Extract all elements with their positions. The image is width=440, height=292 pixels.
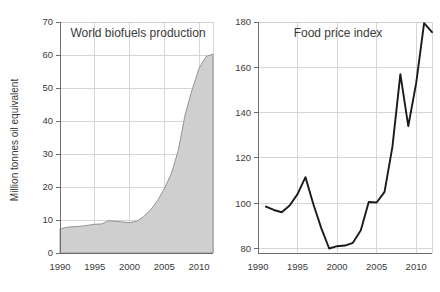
y-tick-label: 140 (235, 107, 251, 118)
x-tick-label: 2000 (119, 261, 140, 272)
y-tick-label: 80 (240, 243, 251, 254)
y-tick-label: 180 (235, 16, 251, 27)
x-tick-label: 2005 (366, 261, 387, 272)
biofuels-chart-title: World biofuels production (70, 26, 205, 40)
y-tick-label: 0 (48, 247, 53, 258)
y-tick-label: 60 (42, 49, 53, 60)
x-tick-label: 1990 (247, 261, 268, 272)
foodprice-chart-title: Food price index (294, 26, 383, 40)
area-series-path (60, 54, 213, 253)
foodprice-gridlines (258, 22, 432, 253)
x-tick-label: 1995 (287, 261, 308, 272)
x-tick-label: 1990 (49, 261, 70, 272)
x-tick-label: 2000 (327, 261, 348, 272)
x-tick-label: 2010 (406, 261, 427, 272)
y-tick-label: 40 (42, 115, 53, 126)
y-tick-label: 70 (42, 16, 53, 27)
foodprice-chart-svg: 8010012014016018019901995200020052010 Fo… (220, 0, 440, 292)
y-tick-label: 160 (235, 62, 251, 73)
y-tick-label: 100 (235, 198, 251, 209)
line-series-path (266, 23, 432, 248)
y-tick-label: 50 (42, 82, 53, 93)
y-tick-label: 30 (42, 148, 53, 159)
x-tick-label: 1995 (84, 261, 105, 272)
foodprice-axes (254, 22, 432, 253)
biofuels-y-axis-title: Million tonnes oil equivalent (9, 79, 20, 202)
biofuels-area-series (60, 54, 213, 253)
chart-panel-biofuels: 01020304050607019901995200020052010 Worl… (0, 0, 220, 292)
y-tick-label: 20 (42, 181, 53, 192)
x-tick-label: 2005 (154, 261, 175, 272)
chart-panel-foodprice: 8010012014016018019901995200020052010 Fo… (220, 0, 440, 292)
biofuels-chart-svg: 01020304050607019901995200020052010 Worl… (0, 0, 220, 292)
figure-two-charts: 01020304050607019901995200020052010 Worl… (0, 0, 440, 292)
y-tick-label: 120 (235, 152, 251, 163)
foodprice-line-series (266, 23, 432, 248)
foodprice-tick-labels: 8010012014016018019901995200020052010 (235, 16, 427, 272)
x-tick-label: 2010 (189, 261, 210, 272)
y-tick-label: 10 (42, 214, 53, 225)
